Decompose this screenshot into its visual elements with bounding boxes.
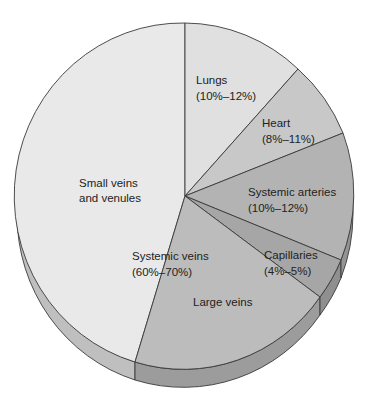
pie-chart: Lungs (10%–12%) Heart (8%–11%) Systemic … xyxy=(0,0,371,403)
label-large-veins: Large veins xyxy=(193,296,253,308)
label-arteries-range: (10%–12%) xyxy=(248,202,308,214)
label-capillaries-name: Capillaries xyxy=(264,249,318,261)
label-systemic-veins-name: Systemic veins xyxy=(132,250,209,262)
label-capillaries-range: (4%–5%) xyxy=(264,265,311,277)
label-lungs-name: Lungs xyxy=(196,74,228,86)
label-systemic-veins-range: (60%–70%) xyxy=(132,266,192,278)
label-heart-name: Heart xyxy=(262,117,291,129)
label-lungs-range: (10%–12%) xyxy=(196,90,256,102)
label-small-veins-line1: Small veins xyxy=(79,177,138,189)
label-arteries-name: Systemic arteries xyxy=(248,186,336,198)
label-small-veins-line2: and venules xyxy=(79,192,141,204)
label-heart-range: (8%–11%) xyxy=(262,133,315,145)
